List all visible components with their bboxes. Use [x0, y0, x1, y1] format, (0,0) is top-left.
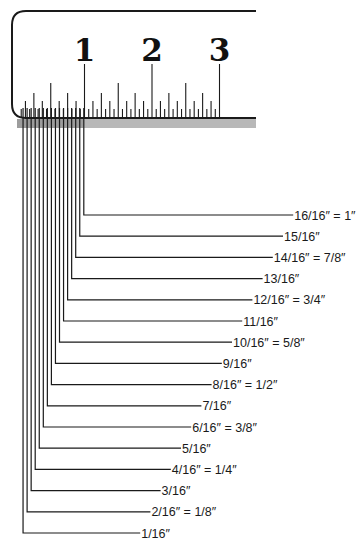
inch-number-3: 3 [209, 32, 231, 68]
label-6-16: 6/16″ = 3/8″ [192, 421, 257, 435]
inch-number-1: 1 [74, 32, 96, 68]
leader-line-12-16 [68, 108, 253, 300]
label-13-16: 13/16″ [264, 272, 300, 286]
label-15-16: 15/16″ [284, 230, 320, 244]
leader-line-14-16 [76, 108, 273, 257]
leader-line-13-16 [72, 108, 263, 279]
leader-line-2-16 [27, 108, 150, 512]
label-10-16: 10/16″ = 5/8″ [233, 336, 305, 350]
label-1-16: 1/16″ [141, 527, 170, 541]
ruler-diagram-canvas: 123 16/16″ = 1″15/16″14/16″ = 7/8″13/16″… [0, 0, 360, 550]
label-2-16: 2/16″ = 1/8″ [151, 505, 216, 519]
label-12-16: 12/16″ = 3/4″ [253, 293, 325, 307]
ruler-diagram: 123 16/16″ = 1″15/16″14/16″ = 7/8″13/16″… [0, 0, 360, 550]
label-7-16: 7/16″ [202, 399, 231, 413]
label-9-16: 9/16″ [223, 357, 252, 371]
label-3-16: 3/16″ [162, 484, 191, 498]
inch-number-2: 2 [141, 32, 163, 68]
leader-line-6-16 [43, 108, 191, 427]
label-5-16: 5/16″ [182, 442, 211, 456]
leader-lines: 16/16″ = 1″15/16″14/16″ = 7/8″13/16″12/1… [23, 108, 356, 541]
label-11-16: 11/16″ [243, 315, 278, 329]
label-14-16: 14/16″ = 7/8″ [274, 251, 346, 265]
leader-line-10-16 [60, 108, 233, 342]
label-16-16: 16/16″ = 1″ [294, 209, 356, 223]
label-8-16: 8/16″ = 1/2″ [213, 378, 278, 392]
ruler: 123 [12, 11, 256, 128]
label-4-16: 4/16″ = 1/4″ [172, 463, 237, 477]
